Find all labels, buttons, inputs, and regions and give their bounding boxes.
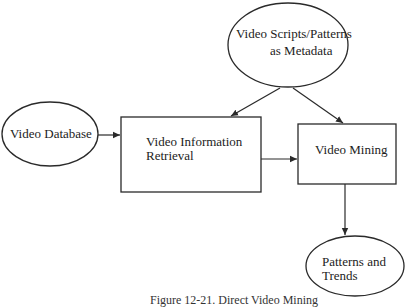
figure-caption: Figure 12-21. Direct Video Mining (150, 293, 318, 308)
patterns-label-line1: Patterns and (322, 255, 386, 269)
edge-metadata-to-mining (293, 88, 343, 123)
retrieval-label-line1: Video Information (146, 135, 242, 149)
edge-metadata-to-retrieval (231, 88, 280, 116)
patterns-label-line2: Trends (322, 269, 358, 283)
database-label: Video Database (10, 127, 92, 141)
mining-label: Video Mining (315, 143, 388, 157)
retrieval-label-line2: Retrieval (146, 149, 194, 163)
metadata-label-line1: Video Scripts/Patterns (236, 27, 352, 41)
metadata-label-line2: as Metadata (270, 44, 332, 58)
